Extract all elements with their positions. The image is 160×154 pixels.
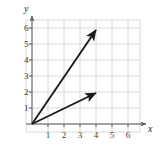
y-tick-label-1: 1 xyxy=(24,104,29,113)
y-tick-label-5: 5 xyxy=(24,40,29,49)
x-axis-label: x xyxy=(148,124,152,134)
x-tick-label-2: 2 xyxy=(62,131,67,140)
grid-lines xyxy=(26,20,140,132)
y-tick-label-2: 2 xyxy=(24,88,29,97)
y-axis-label: y xyxy=(24,4,28,14)
coordinate-plane-figure: 6 5 4 3 2 1 1 2 3 4 5 6 y x xyxy=(0,0,160,154)
x-tick-label-4: 4 xyxy=(94,131,99,140)
x-tick-label-1: 1 xyxy=(46,131,51,140)
y-tick-label-3: 3 xyxy=(24,72,29,81)
y-tick-label-6: 6 xyxy=(24,24,29,33)
x-tick-label-6: 6 xyxy=(126,131,131,140)
x-tick-label-5: 5 xyxy=(110,131,115,140)
y-tick-label-4: 4 xyxy=(24,56,29,65)
x-tick-label-3: 3 xyxy=(78,131,83,140)
